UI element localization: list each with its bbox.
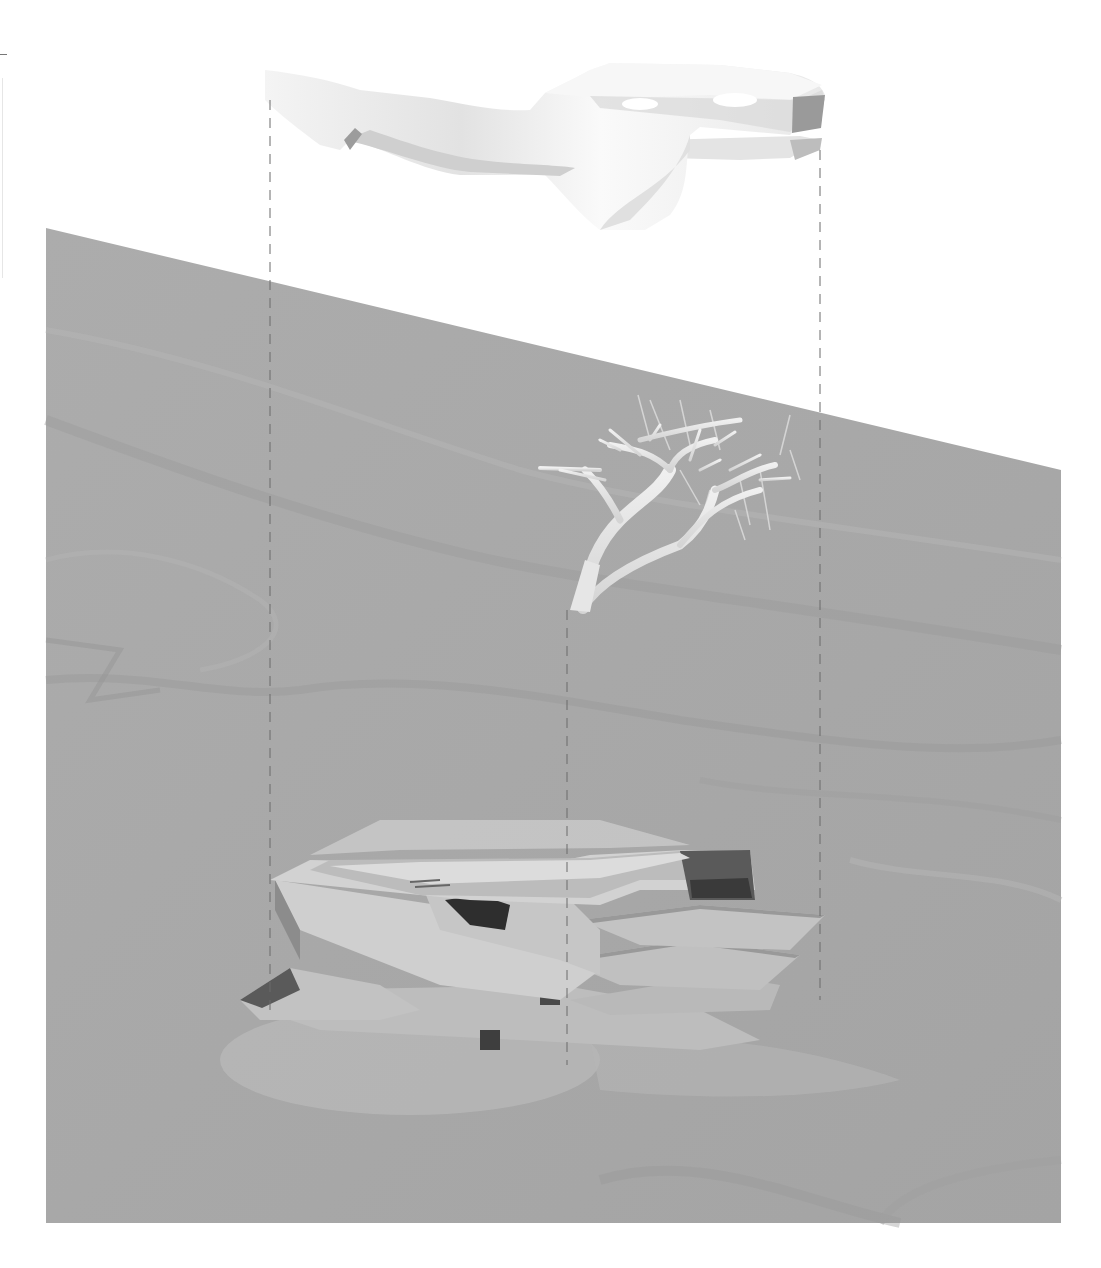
roof-canopy [265, 63, 825, 230]
exploded-axonometric-diagram [0, 0, 1101, 1268]
terrain-plane [46, 228, 1061, 1223]
